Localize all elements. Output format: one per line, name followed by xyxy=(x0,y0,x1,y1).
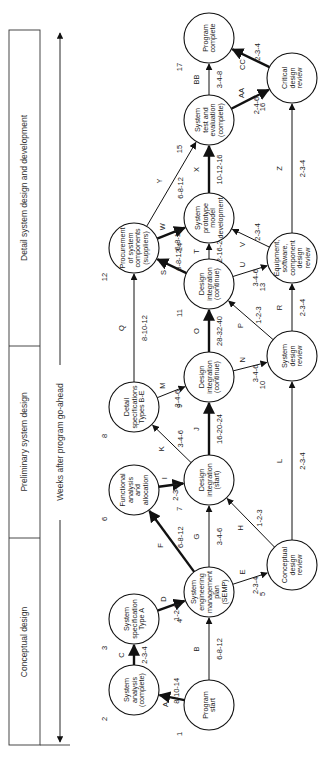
node-number: 17 xyxy=(175,63,184,71)
activity-time-estimate: 2-3-4 xyxy=(171,483,180,501)
activity-cc: CC2-3-4 xyxy=(232,43,269,70)
activity-i: I2-3-4 xyxy=(159,477,183,501)
activity-o: O28-32-40 xyxy=(192,310,224,352)
activity-letter: T xyxy=(192,249,201,254)
activity-letter: D xyxy=(159,596,168,602)
event-node-15: Systemtest andevaluation(complete)15 xyxy=(175,95,234,153)
activity-time-estimate: 1-2-3 xyxy=(255,509,264,527)
event-node-17: Programcomplete17 xyxy=(175,13,234,71)
activity-letter: R xyxy=(275,304,284,310)
activity-letter: M xyxy=(158,383,167,389)
event-node-13: Equipment,software,componentdesignreview… xyxy=(258,233,317,291)
activity-time-estimate: 2-3-4 xyxy=(251,577,260,595)
activity-time-estimate: 3-4-6 xyxy=(215,528,224,546)
activity-time-estimate: 6-8-12 xyxy=(176,177,185,199)
arrow-icon xyxy=(153,425,191,462)
activity-letter: A xyxy=(161,702,170,707)
time-axis-label: Weeks after program go-ahead xyxy=(55,383,65,501)
activity-letter: Z xyxy=(275,166,284,171)
arrow-icon xyxy=(149,511,194,572)
node-label: (complete) xyxy=(137,673,146,707)
activity-letter: BB xyxy=(192,74,201,84)
node-label: start xyxy=(208,698,217,712)
activity-letter: V xyxy=(238,242,247,247)
activity-f: F6-8-12 xyxy=(149,511,194,572)
activity-a: A8-10-14 xyxy=(159,678,184,707)
node-label: Type A xyxy=(137,608,146,630)
activity-l: L2-3-4 xyxy=(275,382,307,540)
pert-network-diagram: Detail system design and development Pre… xyxy=(0,0,323,758)
activity-c: C2-3-4 xyxy=(117,645,149,665)
activity-p: P1-2-3 xyxy=(229,301,273,340)
node-number: 4 xyxy=(175,619,184,623)
activity-time-estimate: 2-3-4 xyxy=(298,452,307,470)
activity-letter: H xyxy=(236,525,245,530)
activity-letter: K xyxy=(157,446,166,451)
phase-preliminary-design: Preliminary system design xyxy=(19,392,29,491)
activity-letter: CC xyxy=(238,59,247,70)
activity-time-estimate: 2-3-4 xyxy=(253,223,262,241)
node-label: complete xyxy=(208,23,217,52)
activity-time-estimate: 2-3-4 xyxy=(298,299,307,317)
time-axis: Weeks after program go-ahead xyxy=(40,33,70,745)
activity-letter: S xyxy=(159,270,168,275)
event-node-9: Designintegration(continue)9 xyxy=(175,352,234,408)
activity-b: B6-8-12 xyxy=(192,618,224,680)
event-node-3: SystemspecificationType A3 xyxy=(100,594,159,650)
event-node-10: Systemdesignreview10 xyxy=(258,331,317,389)
phase-detail-design: Detail system design and development xyxy=(19,114,29,261)
node-label: allocation xyxy=(141,475,150,505)
activity-d: D1-2-3 xyxy=(158,596,185,621)
event-node-1: Programstart1 xyxy=(175,680,234,736)
activity-letter: W xyxy=(158,222,167,230)
event-node-5: Conceptualdesignreview5 xyxy=(258,540,317,596)
node-label: review xyxy=(295,345,304,367)
node-label: review xyxy=(303,247,312,269)
node-label: development xyxy=(216,197,225,238)
activity-letter: O xyxy=(192,328,201,334)
node-number: 15 xyxy=(175,145,184,153)
arrow-icon xyxy=(227,499,274,548)
activity-time-estimate: 3-4-8 xyxy=(215,71,224,89)
activity-m: M3-4-6 xyxy=(157,383,185,408)
activity-time-estimate: 6-8-12 xyxy=(215,638,224,660)
event-node-12: Procurementof systemcomponents(suppliers… xyxy=(100,223,159,281)
activity-k: K3-4-6 xyxy=(153,425,191,462)
activity-z: Z2-3-4 xyxy=(275,104,307,233)
node-number: 2 xyxy=(100,717,109,721)
activity-time-estimate: 6-8-12 xyxy=(176,526,185,548)
activity-time-estimate: 8-10-12 xyxy=(140,315,149,341)
event-node-16: Criticaldesignreview16 xyxy=(258,53,317,111)
node-number: 9 xyxy=(175,404,184,408)
node-number: 16 xyxy=(258,103,267,111)
event-node-2: Systemanalysis(complete)2 xyxy=(100,665,159,721)
node-number: 5 xyxy=(258,592,267,596)
node-number: 14 xyxy=(175,243,184,251)
activity-time-estimate: 6-8-12 xyxy=(174,249,183,271)
node-label: (continue) xyxy=(212,361,221,393)
activity-v: V2-3-4 xyxy=(232,223,269,247)
phase-band: Detail system design and development Pre… xyxy=(9,30,40,745)
activity-time-estimate: 10-12-16 xyxy=(215,154,224,184)
activity-letter: J xyxy=(192,427,201,431)
phase-conceptual-design: Conceptual design xyxy=(19,607,29,678)
activity-e: E2-3-4 xyxy=(233,569,268,594)
arrow-icon xyxy=(229,301,273,340)
activity-time-estimate: 2-3-4 xyxy=(140,646,149,664)
node-label: (SEMP) xyxy=(220,579,229,604)
activity-bb: BB3-4-8 xyxy=(192,64,224,95)
activity-letter: U xyxy=(238,262,247,267)
node-number: 1 xyxy=(175,732,184,736)
activity-j: J16-20-24 xyxy=(192,403,224,455)
activity-g: G3-4-6 xyxy=(192,506,224,567)
activity-time-estimate: 2-3-4 xyxy=(298,160,307,178)
activity-letter: X xyxy=(192,167,201,172)
activity-letter: Y xyxy=(155,178,164,183)
node-label: review xyxy=(295,554,304,576)
activity-time-estimate: 1-2-3 xyxy=(172,603,181,621)
activity-r: R2-3-4 xyxy=(275,284,307,331)
activity-time-estimate: 3-4-6 xyxy=(251,365,260,383)
activity-time-estimate: 16-20-24 xyxy=(215,414,224,444)
activity-time-estimate: 2-3-4 xyxy=(253,43,262,61)
activity-h: H1-2-3 xyxy=(227,499,274,548)
